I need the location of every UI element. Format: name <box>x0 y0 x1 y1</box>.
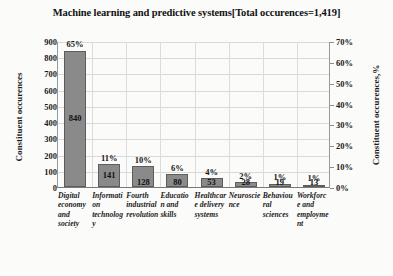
y-tick-mark-left <box>53 172 57 173</box>
y-tick-label-left: 100 <box>17 168 57 177</box>
y-tick-label-left: 400 <box>17 119 57 128</box>
y-tick-label-left: 800 <box>17 54 57 63</box>
bar-group[interactable]: 1%13 <box>297 41 331 187</box>
bar-value-label: 13 <box>310 178 319 187</box>
bar-value-label: 840 <box>69 114 82 123</box>
bar-percent-label: 65% <box>67 40 84 49</box>
y-tick-label-right: 0% <box>336 184 376 193</box>
bar-group[interactable]: 10%128 <box>126 41 160 187</box>
bar-value-label: 128 <box>137 178 150 187</box>
y-tick-label-right: 70% <box>336 38 376 47</box>
bar-chart: Machine learning and predictive systems[… <box>0 0 393 276</box>
bar-group[interactable]: 6%80 <box>160 41 194 187</box>
category-labels: Digital economy and societyInformation t… <box>57 191 330 275</box>
bar-group[interactable]: 2%28 <box>229 41 263 187</box>
y-tick-mark-left <box>53 156 57 157</box>
y-tick-mark-left <box>53 188 57 189</box>
y-tick-mark-left <box>53 42 57 43</box>
y-tick-mark-left <box>53 123 57 124</box>
y-tick-mark-left <box>53 139 57 140</box>
y-tick-mark-left <box>53 91 57 92</box>
y-tick-label-right: 20% <box>336 142 376 151</box>
bar-group[interactable]: 11%141 <box>92 41 126 187</box>
bar-value-label: 19 <box>276 178 285 187</box>
bar-group[interactable]: 4%53 <box>195 41 229 187</box>
y-tick-label-right: 30% <box>336 121 376 130</box>
bar-percent-label: 10% <box>135 156 152 165</box>
y-axis-label-right: Constituent occurences,% <box>371 55 381 175</box>
y-tick-mark-left <box>53 74 57 75</box>
bar-group[interactable]: 65%840 <box>58 41 92 187</box>
bar-percent-label: 11% <box>101 154 118 163</box>
y-tick-mark-right <box>330 105 334 106</box>
y-tick-label-right: 60% <box>336 59 376 68</box>
y-tick-mark-right <box>330 167 334 168</box>
bar-value-label: 80 <box>173 178 182 187</box>
y-tick-label-left: 200 <box>17 152 57 161</box>
x-axis-category-label: Neuroscience <box>228 191 262 210</box>
x-axis-category-label: Workforce and employment <box>296 191 330 229</box>
bar-value-label: 28 <box>241 178 250 187</box>
y-tick-mark-right <box>330 188 334 189</box>
y-tick-mark-left <box>53 107 57 108</box>
x-axis-category-label: Digital economy and society <box>57 191 91 229</box>
y-tick-label-left: 300 <box>17 135 57 144</box>
y-tick-label-left: 600 <box>17 87 57 96</box>
y-tick-mark-right <box>330 84 334 85</box>
y-tick-mark-right <box>330 146 334 147</box>
x-axis-category-label: Fourth industrial revolution <box>125 191 159 219</box>
y-tick-mark-right <box>330 125 334 126</box>
x-axis-category-label: Education and skills <box>159 191 193 219</box>
plot-area: 65%84011%14110%1286%804%532%281%191%13 <box>57 42 330 188</box>
bar-percent-label: 6% <box>171 164 184 173</box>
bar-percent-label: 4% <box>205 168 218 177</box>
y-tick-label-right: 10% <box>336 163 376 172</box>
y-tick-label-left: 500 <box>17 103 57 112</box>
y-tick-mark-left <box>53 58 57 59</box>
x-axis-category-label: Healthcare delivery systems <box>194 191 228 219</box>
y-tick-label-left: 0 <box>17 184 57 193</box>
y-tick-label-left: 900 <box>17 38 57 47</box>
bar-value-label: 53 <box>207 178 216 187</box>
y-tick-mark-right <box>330 42 334 43</box>
y-tick-label-left: 700 <box>17 70 57 79</box>
x-axis-category-label: Behavioural sciences <box>262 191 296 219</box>
y-tick-mark-right <box>330 63 334 64</box>
x-axis-category-label: Information technology <box>91 191 125 229</box>
chart-title: Machine learning and predictive systems[… <box>0 7 393 18</box>
y-tick-label-right: 40% <box>336 101 376 110</box>
bar-value-label: 141 <box>103 171 116 180</box>
bar-group[interactable]: 1%19 <box>263 41 297 187</box>
y-tick-label-right: 50% <box>336 80 376 89</box>
